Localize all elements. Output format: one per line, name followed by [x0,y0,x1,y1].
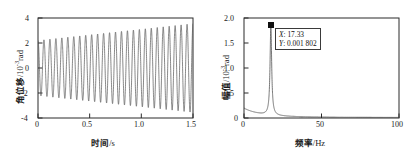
right-y-axis-unit-pre: /10 [221,71,231,82]
left-x-axis-unit: /s [109,138,115,148]
right-ytick-2-0: 2.0 [224,14,234,23]
right-plot-frame [244,18,399,118]
left-y-axis-label: 角位移/10-3rad [13,50,25,104]
figure-container: 4 2 0 -2 -4 0 0.5 1.0 1.5 角位移/10-3rad 时间… [0,0,413,163]
right-xtick-0: 0 [241,120,245,129]
left-xtick-1-5: 1.5 [186,120,196,129]
right-x-axis-unit: /Hz [313,138,325,148]
annotation-x-row: X: 17.33 [279,30,317,39]
left-ytick-4: 4 [25,14,29,23]
left-y-axis-unit-post: rad [15,50,25,61]
left-ytick-2: 2 [25,39,29,48]
peak-marker [268,22,274,28]
chart-panel-right: X: 17.33 Y: 0.001 802 2.0 1.5 1.0 0.5 0 … [207,0,413,163]
right-xtick-50: 50 [316,120,324,129]
annotation-x-key: X [279,30,284,39]
left-ytick-neg4: -4 [21,114,28,123]
left-xtick-0: 0 [35,120,39,129]
right-y-axis-unit-post: rad [221,55,231,66]
right-y-axis-label: 幅值/10-3rad [219,55,231,100]
left-xtick-0-5: 0.5 [82,120,92,129]
right-x-axis-label-cjk: 频率 [295,138,313,148]
left-y-axis-label-cjk: 角位移 [15,77,25,104]
left-x-axis-label-cjk: 时间 [91,138,109,148]
left-xtick-1-0: 1.0 [134,120,144,129]
left-y-axis-unit-sup: -3 [13,61,20,66]
right-ytick-1-5: 1.5 [224,39,234,48]
left-x-axis-label: 时间/s [0,136,206,148]
left-ytick-0: 0 [25,64,29,73]
annotation-y-key: Y [279,39,283,48]
right-ytick-0: 0 [234,114,238,123]
chart-panel-left: 4 2 0 -2 -4 0 0.5 1.0 1.5 角位移/10-3rad 时间… [0,0,206,163]
annotation-x-value: 17.33 [287,30,304,39]
right-y-axis-label-cjk: 幅值 [221,82,231,100]
annotation-y-value: 0.001 802 [287,39,317,48]
annotation-y-row: Y: 0.001 802 [279,39,317,48]
right-xtick-100: 100 [391,120,403,129]
right-x-axis-label: 频率/Hz [207,136,413,148]
data-cursor-annotation: X: 17.33 Y: 0.001 802 [275,28,321,50]
left-y-axis-unit-pre: /10 [15,66,25,77]
right-y-axis-unit-sup: -3 [219,66,226,71]
